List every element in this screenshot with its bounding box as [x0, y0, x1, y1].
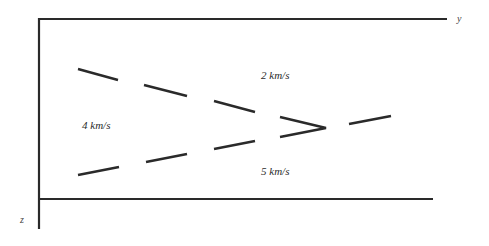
lower-dash-2: [146, 154, 187, 162]
upper-dash-1: [78, 69, 118, 80]
wedge-layer-velocity-label: 4 km/s: [82, 120, 110, 131]
upper-layer-velocity-label: 2 km/s: [261, 70, 289, 81]
continuation-dash: [349, 116, 391, 124]
pinch-out-marker: [280, 117, 326, 137]
lower-dash-1: [78, 167, 119, 175]
upper-dash-3: [214, 101, 255, 112]
upper-dash-2: [144, 85, 187, 96]
lower-layer-velocity-label: 5 km/s: [261, 166, 289, 177]
z-axis-label: z: [20, 215, 24, 225]
lower-dash-3: [214, 141, 255, 149]
seismic-wedge-diagram: [0, 0, 489, 246]
upper-dashed-interface: [78, 69, 255, 112]
y-axis-label: y: [457, 14, 461, 24]
lower-dashed-interface: [78, 141, 255, 175]
